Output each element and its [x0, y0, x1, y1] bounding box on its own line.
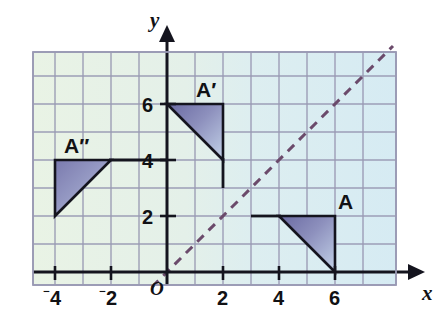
y-axis-label: y	[147, 8, 160, 32]
x-tick-label--4-sign: ⁻	[43, 286, 50, 301]
coordinate-grid-figure: ⁻ 4 ⁻ 2 2 4 6 2 4 6 O x y A A′ A″	[0, 0, 444, 327]
x-axis-arrowhead	[408, 264, 425, 280]
triangle-A-prime-label: A′	[196, 78, 216, 101]
y-tick-label-4: 4	[142, 150, 154, 172]
x-tick-label-4: 4	[273, 287, 285, 309]
triangle-A-label: A	[338, 190, 353, 213]
x-tick-label--2-sign: ⁻	[99, 286, 106, 301]
x-axis-label: x	[421, 281, 433, 305]
origin-label: O	[150, 278, 164, 299]
x-tick-label--4: 4	[50, 287, 62, 309]
y-tick-label-6: 6	[142, 94, 153, 116]
coordinate-plane-svg: ⁻ 4 ⁻ 2 2 4 6 2 4 6 O x y A A′ A″	[0, 0, 444, 327]
x-tick-label-6: 6	[329, 287, 340, 309]
triangle-A-double-prime-label: A″	[64, 134, 89, 157]
y-tick-label-2: 2	[142, 206, 153, 228]
x-tick-label-2: 2	[217, 287, 228, 309]
y-axis-arrowhead	[159, 25, 175, 42]
x-tick-label--2: 2	[106, 287, 117, 309]
